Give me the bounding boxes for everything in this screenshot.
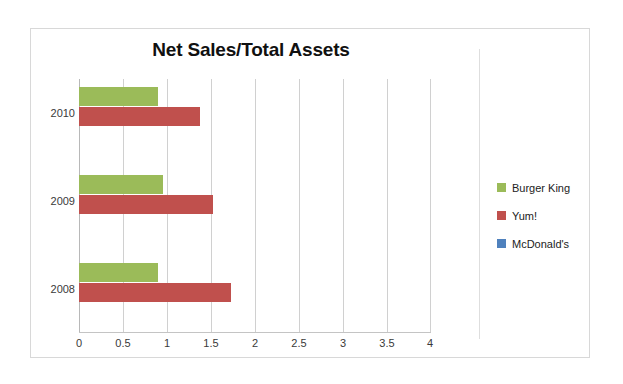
y-axis-label-2008: 2008 [31,283,75,295]
legend-item-yum: Yum! [497,205,607,226]
legend-divider [479,49,480,339]
bar-2010-burger-king [79,87,158,106]
x-tick-3-5: 3.5 [367,337,407,349]
bar-2009-yum [79,195,213,214]
x-axis-line [79,332,431,333]
legend-swatch-icon-burger-king [497,183,506,192]
x-tick-0-5: 0.5 [103,337,143,349]
legend-label-burger-king: Burger King [512,182,570,194]
legend-label-yum: Yum! [512,210,537,222]
x-tick-0: 0 [59,337,99,349]
bar-2010-yum [79,107,200,126]
x-tick-4: 4 [410,337,450,349]
chart-legend: Burger King Yum! McDonald's [497,177,607,261]
chart-container: Net Sales/Total Assets 2010 2009 [30,28,590,358]
bar-group-2008: 2008 [79,263,431,323]
legend-item-mcdonalds: McDonald's [497,233,607,254]
x-tick-1-5: 1.5 [191,337,231,349]
x-tick-3: 3 [323,337,363,349]
x-tick-2-5: 2.5 [279,337,319,349]
y-axis-label-2009: 2009 [31,195,75,207]
legend-swatch-icon-yum [497,211,506,220]
bar-2008-yum [79,283,231,302]
legend-swatch-icon-mcdonalds [497,239,506,248]
x-tick-1: 1 [147,337,187,349]
x-tick-2: 2 [235,337,275,349]
legend-item-burger-king: Burger King [497,177,607,198]
y-axis-label-2010: 2010 [31,107,75,119]
legend-label-mcdonalds: McDonald's [512,238,569,250]
plot-area: 2010 2009 2008 0 0.5 1 1.5 2 2.5 3 3.5 4 [79,79,431,333]
chart-title: Net Sales/Total Assets [31,39,471,61]
bar-2008-burger-king [79,263,158,282]
bar-2009-burger-king [79,175,163,194]
bar-group-2010: 2010 [79,87,431,147]
bar-group-2009: 2009 [79,175,431,235]
